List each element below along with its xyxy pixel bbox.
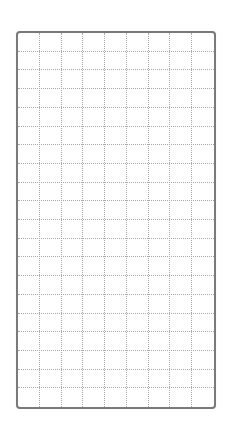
grid-horizontal-line xyxy=(18,88,214,89)
grid-lines xyxy=(18,33,214,407)
grid-horizontal-line xyxy=(18,275,214,276)
grid-horizontal-line xyxy=(18,182,214,183)
grid-horizontal-line xyxy=(18,256,214,257)
dotted-grid xyxy=(16,31,216,409)
grid-horizontal-line xyxy=(18,369,214,370)
grid-horizontal-line xyxy=(18,163,214,164)
grid-horizontal-line xyxy=(18,313,214,314)
grid-horizontal-line xyxy=(18,387,214,388)
grid-horizontal-line xyxy=(18,294,214,295)
grid-horizontal-line xyxy=(18,331,214,332)
grid-horizontal-line xyxy=(18,200,214,201)
grid-horizontal-line xyxy=(18,51,214,52)
grid-horizontal-line xyxy=(18,219,214,220)
grid-horizontal-line xyxy=(18,69,214,70)
grid-horizontal-line xyxy=(18,238,214,239)
grid-horizontal-line xyxy=(18,144,214,145)
grid-horizontal-line xyxy=(18,126,214,127)
grid-horizontal-line xyxy=(18,350,214,351)
canvas xyxy=(0,0,232,437)
grid-horizontal-line xyxy=(18,107,214,108)
